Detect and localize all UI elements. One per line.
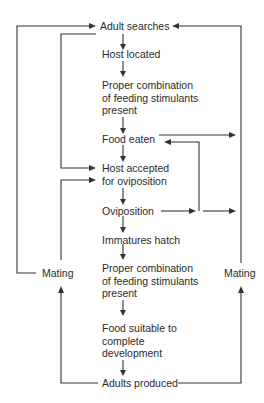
node-adults-produced: Adults produced bbox=[102, 377, 178, 390]
node-line: complete bbox=[102, 335, 177, 348]
node-line: present bbox=[102, 287, 198, 300]
node-line: development bbox=[102, 347, 177, 360]
node-host-located: Host located bbox=[102, 48, 160, 61]
node-line: Proper combination bbox=[102, 79, 198, 92]
node-line: present bbox=[102, 104, 198, 117]
node-line: Food suitable to bbox=[102, 322, 177, 335]
node-mating-right: Mating bbox=[224, 267, 256, 280]
node-feeding-stimulants-2: Proper combination of feeding stimulants… bbox=[102, 262, 198, 300]
node-food-eaten: Food eaten bbox=[102, 133, 155, 146]
node-line: of feeding stimulants bbox=[102, 275, 198, 288]
node-feeding-stimulants-1: Proper combination of feeding stimulants… bbox=[102, 79, 198, 117]
node-line: for oviposition bbox=[102, 175, 169, 188]
node-host-accepted: Host accepted for oviposition bbox=[102, 162, 169, 187]
node-oviposition: Oviposition bbox=[102, 205, 154, 218]
node-line: of feeding stimulants bbox=[102, 92, 198, 105]
node-food-suitable: Food suitable to complete development bbox=[102, 322, 177, 360]
node-line: Host accepted bbox=[102, 162, 169, 175]
node-immatures-hatch: Immatures hatch bbox=[102, 234, 180, 247]
node-line: Proper combination bbox=[102, 262, 198, 275]
node-mating-left: Mating bbox=[42, 267, 74, 280]
node-adult-searches: Adult searches bbox=[100, 20, 169, 33]
flowchart: Adult searches Host located Proper combi… bbox=[0, 0, 264, 403]
